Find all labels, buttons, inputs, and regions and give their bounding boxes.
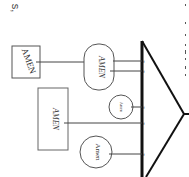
- svg-text:f: f: [143, 69, 145, 74]
- svg-text:Amen: Amen: [119, 102, 124, 112]
- svg-text:AMEN: AMEN: [97, 55, 106, 78]
- svg-text:f: f: [143, 121, 145, 126]
- svg-text:Amen: Amen: [94, 143, 102, 161]
- svg-text:f: f: [143, 152, 145, 157]
- node-box-middle: AMEN: [38, 88, 142, 150]
- svg-text:f: f: [143, 59, 145, 64]
- dotted-margin: [185, 4, 186, 76]
- node-circle-bottom: Amen: [80, 136, 142, 168]
- svg-text:f: f: [143, 105, 145, 110]
- node-oval-top: AMEN: [84, 44, 142, 90]
- node-box-top: AMEN: [12, 46, 84, 78]
- svg-text:AMEN: AMEN: [51, 107, 60, 130]
- diagram-canvas: AMEN AMEN AMEN Amen Amen f f f f f: [0, 0, 189, 177]
- triangle-structure: [142, 41, 189, 177]
- node-circle-small: Amen: [109, 95, 142, 119]
- node-label: AMEN: [20, 47, 39, 76]
